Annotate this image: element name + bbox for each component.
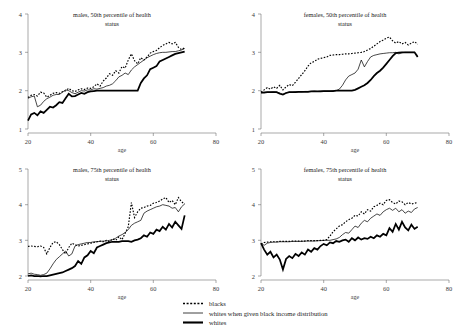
y-tick-3: 3 bbox=[19, 237, 22, 244]
x-axis-label: age bbox=[118, 147, 127, 153]
x-tick-60: 60 bbox=[150, 138, 156, 145]
x-tick-80: 80 bbox=[213, 285, 219, 292]
x-tick-40: 40 bbox=[88, 285, 94, 292]
y-tick-1: 1 bbox=[252, 126, 255, 133]
y-tick-5: 5 bbox=[19, 166, 22, 173]
figure-four-panel-health-status-by-age: males, 50th percentile of health status … bbox=[0, 0, 467, 334]
x-tick-40: 40 bbox=[321, 138, 327, 145]
panel-title-line2: status bbox=[105, 175, 120, 182]
y-tick-2: 2 bbox=[19, 273, 22, 280]
figure-background bbox=[0, 0, 467, 334]
x-tick-80: 80 bbox=[446, 138, 452, 145]
panel-title-line1: females, 75th percentile of health bbox=[304, 166, 388, 173]
panel-title-line1: males, 75th percentile of health bbox=[73, 166, 152, 173]
y-tick-3: 3 bbox=[252, 237, 255, 244]
x-tick-20: 20 bbox=[258, 138, 264, 145]
legend-label-blacks: blacks bbox=[209, 300, 226, 307]
x-axis-label: age bbox=[351, 147, 360, 153]
x-tick-40: 40 bbox=[88, 138, 94, 145]
panel-title-line2: status bbox=[105, 20, 120, 27]
x-tick-20: 20 bbox=[25, 138, 31, 145]
x-axis-label: age bbox=[118, 294, 127, 300]
panel-title-line2: status bbox=[338, 175, 353, 182]
x-tick-80: 80 bbox=[213, 138, 219, 145]
y-tick-2: 2 bbox=[252, 273, 255, 280]
x-tick-80: 80 bbox=[446, 285, 452, 292]
x-tick-60: 60 bbox=[383, 285, 389, 292]
panel-title-line1: males, 50th percentile of health bbox=[73, 11, 152, 18]
x-tick-20: 20 bbox=[25, 285, 31, 292]
x-tick-60: 60 bbox=[383, 138, 389, 145]
x-axis-label: age bbox=[351, 294, 360, 300]
x-tick-40: 40 bbox=[321, 285, 327, 292]
y-tick-5: 5 bbox=[252, 166, 255, 173]
legend-label-whites: whites bbox=[209, 319, 227, 326]
y-tick-3: 3 bbox=[19, 49, 22, 56]
x-tick-60: 60 bbox=[150, 285, 156, 292]
panel-title-line1: females, 50th percentile of health bbox=[304, 11, 388, 18]
panel-title-line2: status bbox=[338, 20, 353, 27]
y-tick-2: 2 bbox=[19, 87, 22, 94]
y-tick-3: 3 bbox=[252, 49, 255, 56]
x-tick-20: 20 bbox=[258, 285, 264, 292]
y-tick-1: 1 bbox=[19, 126, 22, 133]
legend-label-whites-adjusted: whites when given black income distribut… bbox=[209, 310, 328, 317]
y-tick-2: 2 bbox=[252, 87, 255, 94]
